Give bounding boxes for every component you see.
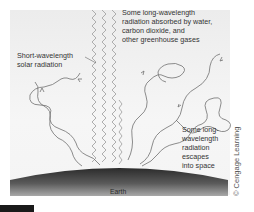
- solar-radiation-waves: [92, 10, 122, 164]
- label-absorbed-radiation: Some long-wavelength radiation absorbed …: [122, 8, 212, 44]
- copyright-credit: © Cengage Learning: [232, 136, 241, 196]
- label-short-wavelength: Short-wavelength solar radiation: [17, 51, 73, 69]
- label-escapes-to-space: Some long- wavelength radiation escapes …: [182, 125, 219, 170]
- caption-bar: [0, 205, 34, 212]
- label-earth: Earth: [110, 188, 126, 195]
